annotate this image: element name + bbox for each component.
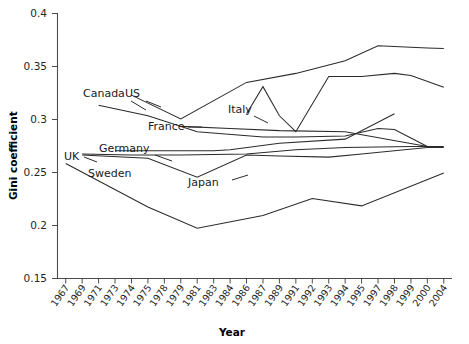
leader-line-italy — [254, 116, 268, 123]
y-axis-title: Gini coefficient — [7, 111, 19, 200]
series-label-us: US — [125, 87, 140, 100]
y-tick-labels: 0.4 0.35 0.3 0.25 0.2 0.15 — [24, 7, 48, 284]
y-tick-label-3: 0.25 — [24, 166, 47, 178]
chart-canvas: 0.4 0.35 0.3 0.25 0.2 0.15 Gini coeffici… — [0, 0, 469, 344]
series-label-sweden: Sweden — [88, 167, 131, 180]
x-tick-marks — [66, 279, 444, 284]
series-label-uk: UK — [64, 150, 80, 163]
series-label-canada: Canada — [83, 87, 125, 100]
leader-line-uk — [84, 157, 97, 162]
series-line-italy — [247, 73, 444, 131]
x-axis-title: Year — [218, 326, 246, 338]
leader-line-germany — [155, 155, 172, 161]
y-tick-label-5: 0.15 — [24, 272, 47, 284]
y-tick-label-4: 0.2 — [30, 219, 47, 231]
y-tick-label-2: 0.3 — [30, 113, 47, 125]
series-label-germany: Germany — [99, 142, 150, 155]
series-label-italy: Italy — [228, 103, 252, 116]
series-label-group: Canada US Italy France Germany UK Sweden… — [64, 87, 268, 189]
x-tick-labels: 1967196919711973197419751978197919811983… — [48, 282, 449, 308]
x-tick-label-2004: 2004 — [427, 282, 450, 308]
series-line-us — [131, 46, 443, 119]
gini-coefficient-chart: 0.4 0.35 0.3 0.25 0.2 0.15 Gini coeffici… — [0, 0, 469, 344]
y-tick-marks — [52, 14, 58, 279]
series-label-france: France — [148, 120, 185, 133]
leader-line-japan — [232, 175, 248, 180]
y-tick-label-0: 0.4 — [30, 7, 47, 19]
y-tick-label-1: 0.35 — [24, 60, 47, 72]
leader-line-canada — [131, 101, 146, 110]
series-lines-group — [66, 46, 444, 228]
series-label-japan: Japan — [187, 176, 219, 189]
